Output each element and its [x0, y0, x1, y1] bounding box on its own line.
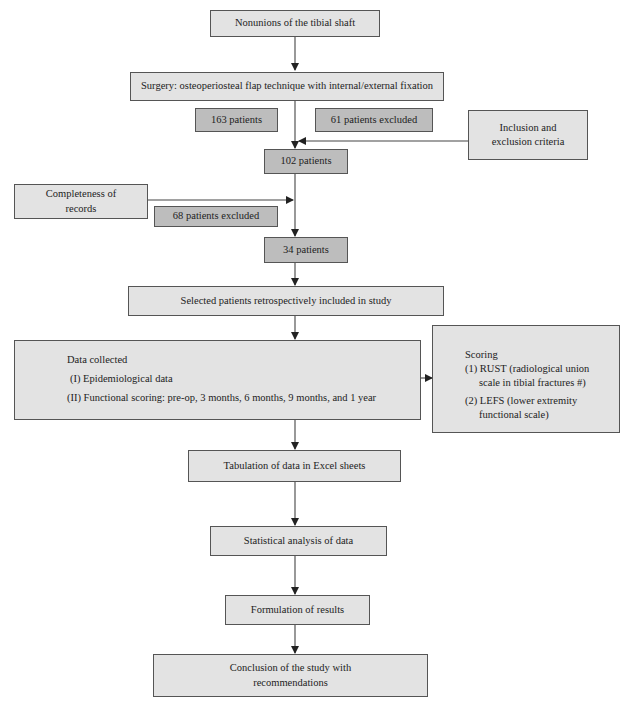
node-surgery-label: Surgery: osteoperiosteal flap technique … [141, 79, 433, 93]
node-data-collected: Data collected (I) Epidemiological data … [14, 340, 421, 420]
node-68-excluded-label: 68 patients excluded [173, 209, 259, 223]
node-selected: Selected patients retrospectively includ… [128, 286, 444, 316]
node-formulation: Formulation of results [225, 595, 370, 625]
node-34-patients-label: 34 patients [283, 243, 329, 257]
node-completeness: Completeness of records [14, 184, 148, 219]
node-formulation-label: Formulation of results [251, 603, 344, 617]
node-statistical-label: Statistical analysis of data [244, 534, 353, 548]
node-tabulation-label: Tabulation of data in Excel sheets [224, 459, 366, 473]
node-61-excluded: 61 patients excluded [315, 108, 433, 132]
node-102-patients-label: 102 patients [280, 154, 331, 168]
data-collected-item: (I) Epidemiological data [67, 372, 376, 386]
node-nonunions: Nonunions of the tibial shaft [210, 10, 380, 37]
data-collected-item: (II) Functional scoring: pre-op, 3 month… [67, 391, 376, 405]
node-completeness-label: Completeness of records [39, 187, 123, 215]
node-statistical: Statistical analysis of data [210, 526, 387, 556]
node-163-patients: 163 patients [195, 108, 278, 132]
scoring-title: Scoring [465, 348, 589, 362]
node-61-excluded-label: 61 patients excluded [331, 113, 417, 127]
node-68-excluded: 68 patients excluded [154, 206, 278, 227]
node-34-patients: 34 patients [264, 237, 348, 263]
node-conclusion-label: Conclusion of the study with recommendat… [224, 661, 357, 689]
data-collected-title: Data collected [67, 353, 376, 367]
node-tabulation: Tabulation of data in Excel sheets [188, 450, 401, 482]
node-inclusion-criteria: Inclusion and exclusion criteria [468, 110, 588, 160]
node-selected-label: Selected patients retrospectively includ… [181, 294, 392, 308]
scoring-item-lefs-cont: functional scale) [465, 408, 589, 422]
scoring-item-rust: (1) RUST (radiological union [465, 362, 589, 376]
node-102-patients: 102 patients [264, 149, 348, 174]
scoring-item-rust-cont: scale in tibial fractures #) [465, 376, 589, 390]
node-inclusion-criteria-label: Inclusion and exclusion criteria [487, 121, 569, 149]
node-scoring: Scoring (1) RUST (radiological union sca… [432, 325, 620, 433]
node-nonunions-label: Nonunions of the tibial shaft [235, 16, 355, 30]
scoring-item-lefs: (2) LEFS (lower extremity [465, 394, 589, 408]
node-surgery: Surgery: osteoperiosteal flap technique … [130, 72, 444, 101]
node-163-patients-label: 163 patients [211, 113, 262, 127]
node-conclusion: Conclusion of the study with recommendat… [153, 654, 428, 697]
